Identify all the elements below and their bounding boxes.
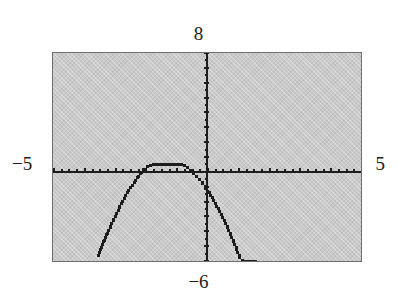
window-xmin-label: −5: [12, 154, 32, 173]
figure-root: 8 −6 −5 5: [0, 0, 397, 303]
curve-series: [97, 163, 257, 261]
window-xmax-label: 5: [376, 154, 386, 173]
y-axis: [204, 53, 209, 261]
plot-screen[interactable]: [52, 52, 362, 262]
window-ymax-label: 8: [0, 24, 397, 43]
window-ymin-label: −6: [0, 272, 397, 291]
plot-canvas: [53, 53, 361, 261]
